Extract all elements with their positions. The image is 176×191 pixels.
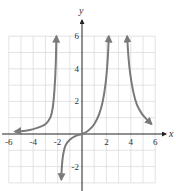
- y-tick-label: -2: [72, 162, 80, 172]
- x-tick-label: 2: [104, 137, 109, 147]
- function-graph: x y -6-4-2246642-2: [0, 0, 176, 191]
- x-tick-label: -4: [29, 137, 37, 147]
- y-axis-label: y: [78, 5, 84, 16]
- middle-branch: [61, 36, 109, 179]
- x-tick-label: -2: [54, 137, 62, 147]
- y-tick-label: 2: [75, 96, 80, 106]
- x-tick-label: -6: [5, 137, 13, 147]
- x-tick-label: 6: [153, 137, 158, 147]
- x-axis-label: x: [168, 128, 174, 139]
- y-tick-label: 4: [75, 64, 80, 74]
- axes: x y: [2, 5, 174, 191]
- x-tick-label: 4: [129, 137, 134, 147]
- y-tick-label: 6: [75, 31, 80, 41]
